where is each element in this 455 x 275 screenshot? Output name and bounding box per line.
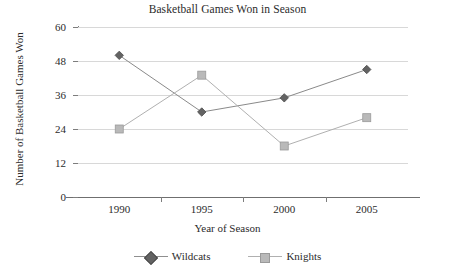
x-tick-mark	[243, 197, 244, 202]
data-point-wildcats-1995[interactable]	[198, 108, 206, 116]
legend-label-knights: Knights	[286, 250, 321, 262]
x-tick-label: 1995	[172, 203, 232, 215]
y-tick-label: 12	[26, 158, 66, 168]
x-tick-mark	[161, 197, 162, 202]
legend-item-knights[interactable]: Knights	[248, 250, 321, 262]
data-point-wildcats-1990[interactable]	[115, 51, 123, 59]
y-tick-label: 0	[26, 192, 66, 202]
chart-title: Basketball Games Won in Season	[0, 3, 455, 15]
series-line-wildcats	[119, 55, 367, 112]
y-tick-label: 36	[26, 90, 66, 100]
data-point-knights-1990[interactable]	[115, 125, 123, 133]
legend-marker-knights	[248, 251, 282, 261]
data-point-wildcats-2000[interactable]	[280, 94, 288, 102]
x-tick-label: 1990	[89, 203, 149, 215]
y-tick-label: 24	[26, 124, 66, 134]
x-tick-mark	[326, 197, 327, 202]
legend-label-wildcats: Wildcats	[172, 250, 211, 262]
y-tick-label: 60	[26, 22, 66, 32]
x-tick-label: 2000	[254, 203, 314, 215]
y-tick-mark	[73, 197, 78, 198]
y-tick-label: 48	[26, 56, 66, 66]
legend-item-wildcats[interactable]: Wildcats	[134, 250, 211, 262]
data-point-wildcats-2005[interactable]	[363, 65, 371, 73]
legend-marker-wildcats	[134, 251, 168, 261]
chart-container: Basketball Games Won in Season Number of…	[0, 0, 455, 275]
data-point-knights-2005[interactable]	[363, 114, 371, 122]
data-point-knights-1995[interactable]	[198, 71, 206, 79]
x-axis-title: Year of Season	[0, 222, 455, 234]
chart-legend: Wildcats Knights	[0, 250, 455, 262]
data-series-layer	[78, 27, 408, 197]
y-axis-title: Number of Basketball Games Won	[13, 19, 25, 199]
plot-area	[78, 27, 408, 197]
data-point-knights-2000[interactable]	[280, 142, 288, 150]
x-tick-label: 2005	[337, 203, 397, 215]
series-line-knights	[119, 75, 367, 146]
